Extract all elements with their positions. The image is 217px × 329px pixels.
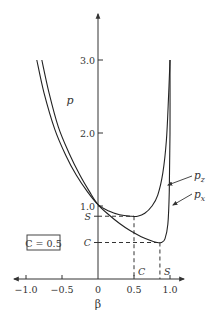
ref-beta-label: S bbox=[164, 266, 171, 277]
x-tick-label: −1.0 bbox=[14, 284, 37, 295]
x-tick-label: −0.5 bbox=[50, 284, 73, 295]
series-label-p_x: px bbox=[194, 188, 206, 203]
ref-level-label: S bbox=[84, 211, 91, 222]
curves bbox=[37, 60, 170, 243]
x-tick-label: 1.0 bbox=[162, 284, 177, 295]
series-label-arrow bbox=[168, 176, 192, 185]
x-tick-label: 0.5 bbox=[126, 284, 141, 295]
x-axis-label: β bbox=[95, 298, 101, 311]
annotation-text: C = 0.5 bbox=[25, 238, 61, 249]
curve-p_z bbox=[37, 60, 170, 217]
y-tick-label: 3.0 bbox=[80, 55, 95, 66]
reference-lines: SCCS bbox=[84, 211, 171, 279]
series-label-p_z: pz bbox=[194, 169, 205, 184]
curve-p_x bbox=[42, 60, 170, 243]
chart: −1.0−0.500.51.0 1.02.03.0 SCCS β p C = 0… bbox=[0, 0, 217, 329]
y-ticks: 1.02.03.0 bbox=[80, 55, 103, 212]
y-axis-label: p bbox=[66, 94, 73, 107]
series-label-arrow bbox=[173, 194, 192, 205]
x-tick-label: 0 bbox=[95, 284, 101, 295]
series-labels: pzpx bbox=[168, 169, 206, 205]
ref-beta-label: C bbox=[138, 266, 146, 277]
x-ticks: −1.0−0.500.51.0 bbox=[14, 275, 177, 295]
y-tick-label: 2.0 bbox=[80, 128, 95, 139]
ref-level-label: C bbox=[84, 237, 92, 248]
